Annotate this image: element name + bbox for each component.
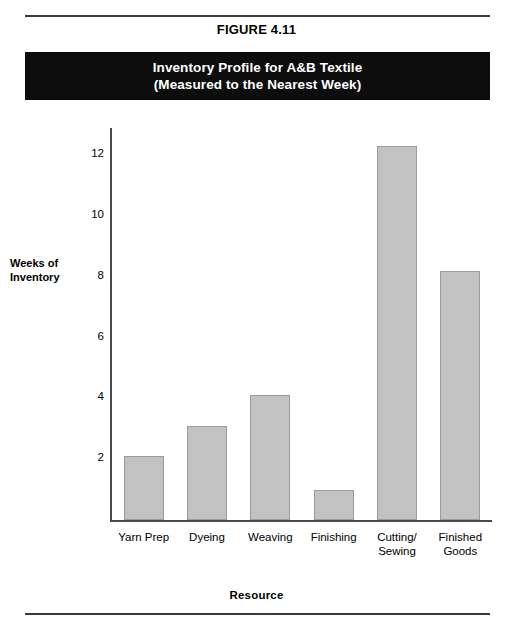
x-tick-label-line-1: Finished	[439, 531, 482, 543]
y-tick-label: 6	[78, 330, 104, 342]
bar	[250, 395, 290, 520]
y-tick-label: 10	[78, 208, 104, 220]
x-axis-line	[110, 520, 492, 522]
x-tick-label: Finishing	[302, 530, 365, 544]
x-tick-label-line-1: Finishing	[311, 531, 357, 543]
y-axis-title: Weeks of Inventory	[10, 257, 72, 285]
x-axis-title: Resource	[0, 589, 513, 601]
y-tick-label: 8	[78, 269, 104, 281]
x-tick-label-line-2: Goods	[429, 544, 492, 558]
x-tick-label: FinishedGoods	[429, 530, 492, 559]
x-tick-label: Yarn Prep	[112, 530, 175, 544]
bar	[377, 146, 417, 520]
bar	[314, 490, 354, 520]
bar	[187, 426, 227, 520]
y-tick-label: 2	[78, 451, 104, 463]
x-tick-label: Cutting/Sewing	[365, 530, 428, 559]
x-tick-label-line-1: Dyeing	[189, 531, 225, 543]
bottom-divider	[25, 613, 490, 615]
y-tick-label: 12	[78, 147, 104, 159]
x-tick-label-line-1: Weaving	[248, 531, 293, 543]
y-axis-line	[110, 128, 112, 522]
x-tick-label: Weaving	[239, 530, 302, 544]
y-tick-label: 4	[78, 390, 104, 402]
x-tick-label-line-1: Yarn Prep	[118, 531, 169, 543]
y-axis-title-line-1: Weeks of	[10, 257, 58, 269]
bar-chart: Weeks of Inventory 24681012 Yarn PrepDye…	[0, 0, 513, 639]
x-tick-label-line-2: Sewing	[365, 544, 428, 558]
bar	[440, 271, 480, 520]
x-tick-label-line-1: Cutting/	[377, 531, 417, 543]
x-tick-label: Dyeing	[175, 530, 238, 544]
y-axis-title-line-2: Inventory	[10, 271, 60, 283]
bar	[124, 456, 164, 520]
